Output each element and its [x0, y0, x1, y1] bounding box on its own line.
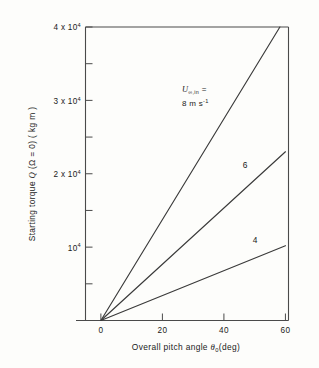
series-line-8ms: [101, 27, 280, 321]
x-axis-title: Overall pitch angle θ0(deg): [132, 342, 240, 353]
wind-speed-annotation-line2: 8 m s-1: [182, 98, 209, 108]
plot-frame: [76, 27, 289, 321]
starting-torque-chart: 4 x 104 3 x 104 2 x 104 104 0 20 40 60 O…: [0, 0, 319, 368]
x-axis-ticks: [101, 314, 286, 321]
data-series-group: [101, 27, 286, 321]
x-tick-label-60: 60: [281, 326, 291, 335]
y-tick-label-40000: 4 x 104: [53, 22, 81, 32]
y-axis-ticks: [86, 27, 93, 284]
series-line-4ms: [101, 246, 286, 321]
y-axis-title: Starting torque Q (Ω = 0) ( kg m ): [27, 107, 37, 242]
curve-label-4: 4: [253, 235, 258, 245]
wind-speed-annotation-line1: U∞,in =: [182, 85, 207, 95]
wind-speed-annotation: U∞,in = 8 m s-1: [182, 85, 209, 108]
y-tick-label-30000: 3 x 104: [53, 96, 81, 106]
series-line-6ms: [101, 152, 286, 321]
x-tick-label-40: 40: [219, 326, 229, 335]
y-tick-label-10000: 104: [68, 242, 81, 252]
figure-container: 4 x 104 3 x 104 2 x 104 104 0 20 40 60 O…: [0, 0, 319, 368]
y-axis-tick-labels: 4 x 104 3 x 104 2 x 104 104: [53, 22, 81, 252]
y-tick-label-20000: 2 x 104: [53, 169, 81, 179]
curve-label-6: 6: [243, 160, 248, 170]
x-axis-tick-labels: 0 20 40 60: [98, 326, 290, 335]
x-tick-label-0: 0: [98, 326, 103, 335]
x-tick-label-20: 20: [158, 326, 168, 335]
